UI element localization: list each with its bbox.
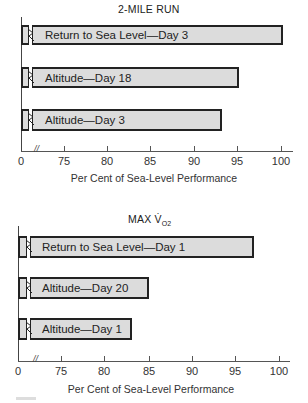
x-tick-label: 90 — [188, 155, 200, 167]
x-tick-label: 75 — [58, 155, 70, 167]
bar-break-icon — [28, 67, 33, 88]
x-tick — [107, 146, 108, 151]
x-tick-label: 95 — [231, 155, 243, 167]
x-tick-label: 90 — [186, 365, 198, 377]
x-axis — [21, 151, 293, 152]
x-tick-label: 100 — [272, 155, 290, 167]
bar-label: Altitude—Day 1 — [42, 323, 122, 335]
x-tick-label: 0 — [18, 155, 24, 167]
axis-break-icon: // — [33, 354, 38, 364]
bar-break-icon — [26, 318, 31, 340]
cut-off-caption — [16, 397, 36, 400]
x-tick-label: 80 — [101, 155, 113, 167]
chart-title: MAX V̇O2 — [128, 213, 171, 227]
x-tick-label: 0 — [15, 365, 21, 377]
bar-altitude-day-3: Altitude—Day 3 — [21, 109, 222, 131]
bar-label: Return to Sea Level—Day 3 — [45, 29, 188, 41]
bar-label: Altitude—Day 18 — [45, 72, 131, 84]
x-tick — [194, 146, 195, 151]
bar-return-sea-level-day-3: Return to Sea Level—Day 3 — [21, 25, 283, 45]
chart-title-subscript: O2 — [162, 220, 172, 227]
bar-break-icon — [28, 25, 33, 45]
x-tick — [235, 356, 236, 361]
chart-title-main: MAX V̇ — [128, 213, 162, 225]
x-tick — [104, 356, 105, 361]
x-tick — [192, 356, 193, 361]
x-tick — [150, 146, 151, 151]
x-tick — [64, 146, 65, 151]
x-tick — [149, 356, 150, 361]
x-axis-label: Per Cent of Sea-Level Performance — [71, 172, 237, 184]
chart-2-mile-run: 2-MILE RUN // 0 75 80 85 90 95 100 Per C… — [0, 0, 308, 200]
x-tick-label: 75 — [55, 365, 67, 377]
x-tick-label: 80 — [98, 365, 110, 377]
x-tick-label: 95 — [229, 365, 241, 377]
bar-break-icon — [26, 236, 31, 258]
bar-altitude-day-18: Altitude—Day 18 — [21, 67, 239, 88]
bar-break-icon — [26, 277, 31, 299]
axis-break-icon: // — [34, 144, 39, 154]
bar-label: Altitude—Day 3 — [45, 114, 125, 126]
x-tick — [237, 146, 238, 151]
bar-altitude-day-20: Altitude—Day 20 — [18, 277, 149, 299]
x-axis-label: Per Cent of Sea-Level Performance — [68, 383, 234, 395]
x-axis — [18, 361, 290, 362]
bar-label: Return to Sea Level—Day 1 — [42, 241, 185, 253]
x-tick-label: 85 — [144, 155, 156, 167]
chart-title: 2-MILE RUN — [118, 3, 180, 15]
bar-altitude-day-1: Altitude—Day 1 — [18, 318, 132, 340]
x-tick-label: 100 — [270, 365, 288, 377]
x-tick — [61, 356, 62, 361]
bar-return-sea-level-day-1: Return to Sea Level—Day 1 — [18, 236, 254, 258]
chart-max-vo2: MAX V̇O2 // 0 75 80 85 90 95 100 Per Cen… — [0, 200, 308, 403]
x-tick — [281, 146, 282, 151]
bar-label: Altitude—Day 20 — [42, 282, 128, 294]
bar-break-icon — [28, 109, 33, 131]
x-tick-label: 85 — [143, 365, 155, 377]
x-tick — [279, 356, 280, 361]
